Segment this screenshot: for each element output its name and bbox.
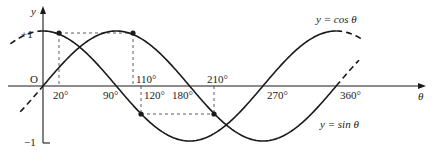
y-axis-arrow-icon	[40, 6, 46, 14]
y-tick-plus1: +1	[21, 28, 33, 40]
point-210deg	[211, 111, 216, 116]
x-axis-arrow-icon	[418, 83, 426, 89]
x-tick-270: 270°	[267, 89, 288, 101]
x-tick-180: 180°	[172, 89, 193, 101]
sin-curve-extension-left	[20, 86, 43, 112]
trig-graph-figure: y +1 −1 O θ 20° 90° 120° 180° 270° 360° …	[0, 0, 434, 158]
y-tick-minus1: −1	[24, 136, 36, 148]
sin-curve-label: y = sin θ	[319, 118, 359, 130]
cos-curve-label: y = cos θ	[315, 13, 357, 25]
x-tick-110: 110°	[136, 73, 157, 85]
point-110deg	[130, 30, 135, 35]
x-tick-120: 120°	[144, 89, 165, 101]
origin-label: O	[30, 73, 38, 85]
trig-graph-svg: y +1 −1 O θ 20° 90° 120° 180° 270° 360° …	[0, 0, 434, 158]
point-20deg	[56, 30, 61, 35]
x-tick-90: 90°	[103, 89, 118, 101]
x-axis-label: θ	[418, 90, 424, 102]
cos-curve-extension-right	[336, 31, 362, 39]
y-axis-label: y	[30, 5, 36, 17]
x-tick-210: 210°	[207, 73, 228, 85]
x-tick-360: 360°	[340, 89, 361, 101]
sin-curve-extension-right	[336, 60, 359, 86]
x-tick-20: 20°	[53, 89, 68, 101]
point-120deg	[138, 111, 143, 116]
